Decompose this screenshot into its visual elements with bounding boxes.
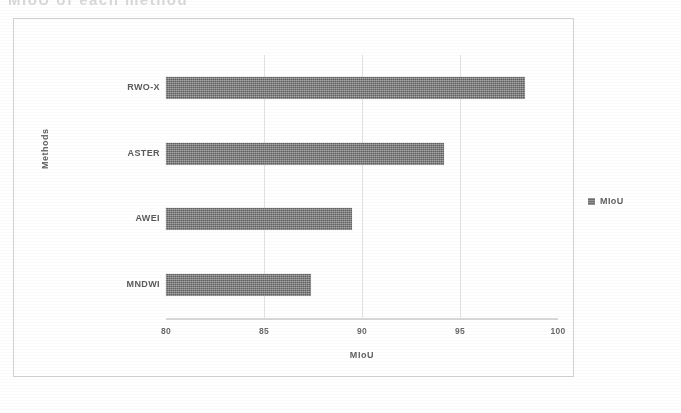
- x-tick-label: 90: [357, 326, 367, 336]
- chart-figure-panel: Methods RWO-XASTERAWEIMNDWI 80859095100 …: [13, 18, 574, 377]
- x-tick-label-group: 80859095100: [166, 326, 558, 342]
- x-axis-title: MIoU: [166, 350, 558, 360]
- x-tick-label: 85: [259, 326, 269, 336]
- bar: [166, 143, 444, 165]
- y-tick-label: MNDWI: [40, 279, 160, 289]
- legend-label: MIoU: [600, 196, 624, 206]
- bar: [166, 274, 311, 296]
- x-tick-label: 95: [455, 326, 465, 336]
- y-tick-label: ASTER: [40, 148, 160, 158]
- y-tick-label: RWO-X: [40, 82, 160, 92]
- bar: [166, 77, 525, 99]
- plot-area: [166, 55, 558, 318]
- page-title: MIoU of each method: [8, 0, 188, 8]
- x-tick-label: 80: [161, 326, 171, 336]
- y-tick-label-group: RWO-XASTERAWEIMNDWI: [34, 55, 160, 318]
- x-axis-line: [166, 318, 558, 320]
- top-title-strip: MIoU of each method: [0, 0, 681, 16]
- chart-legend: MIoU: [588, 196, 624, 206]
- bar: [166, 208, 352, 230]
- x-tick-label: 100: [550, 326, 565, 336]
- square-marker-icon: [588, 198, 595, 205]
- y-tick-label: AWEI: [40, 213, 160, 223]
